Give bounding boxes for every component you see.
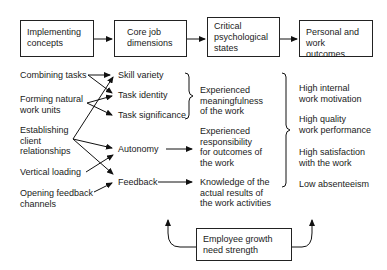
dimension-autonomy: Autonomy [118,144,159,155]
arrow-opening-feedback [94,183,112,192]
header-box-outcomes: Personal and work outcomes [299,20,373,57]
concept-feedback-channels: Opening feedback channels [20,188,93,209]
brace-core [185,73,193,119]
brace-states [282,73,290,187]
concept-forming-work-units: Forming natural work units [20,94,83,115]
header-box-critical: Critical psychological states [207,17,280,57]
dimension-feedback: Feedback [118,177,158,188]
outcome-absenteeism: Low absenteeism [299,179,369,190]
outcome-motivation: High internal work motivation [299,83,362,104]
moderator-box-growth-need: Employee growth need strength [196,228,292,261]
state-meaningfulness: Experienced meaningfulness of the work [200,85,263,117]
arrow-moderator-right [292,220,312,247]
concept-client-relationships: Establishing client relationships [20,125,71,157]
outcome-satisfaction: High satisfaction with the work [299,147,365,168]
outcome-performance: High quality work performance [299,114,371,135]
concept-vertical-loading: Vertical loading [20,167,81,178]
arrow-forming-significance [87,103,112,115]
dimension-skill-variety: Skill variety [118,70,164,81]
arrow-moderator-left [168,220,196,247]
concept-combining-tasks: Combining tasks [20,70,87,81]
header-box-core: Core job dimensions [114,20,187,57]
state-knowledge: Knowledge of the actual results of the w… [200,177,271,209]
arrow-vertical-autonomy [86,155,113,172]
state-responsibility: Experienced responsibility for outcomes … [200,126,262,168]
dimension-task-identity: Task identity [118,90,168,101]
dimension-task-significance: Task significance [118,110,186,121]
header-box-implementing: Implementing concepts [20,20,94,57]
